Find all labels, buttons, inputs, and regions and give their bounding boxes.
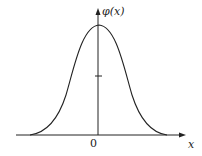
y-axis-arrow-icon [96,8,101,15]
y-axis-label: φ(x) [102,6,125,17]
diagram: φ(x) x 0 [0,0,202,156]
bell-curve-plot [0,0,202,156]
x-axis-arrow-icon [179,133,186,138]
origin-label: 0 [90,138,97,149]
x-axis-label: x [188,139,194,150]
